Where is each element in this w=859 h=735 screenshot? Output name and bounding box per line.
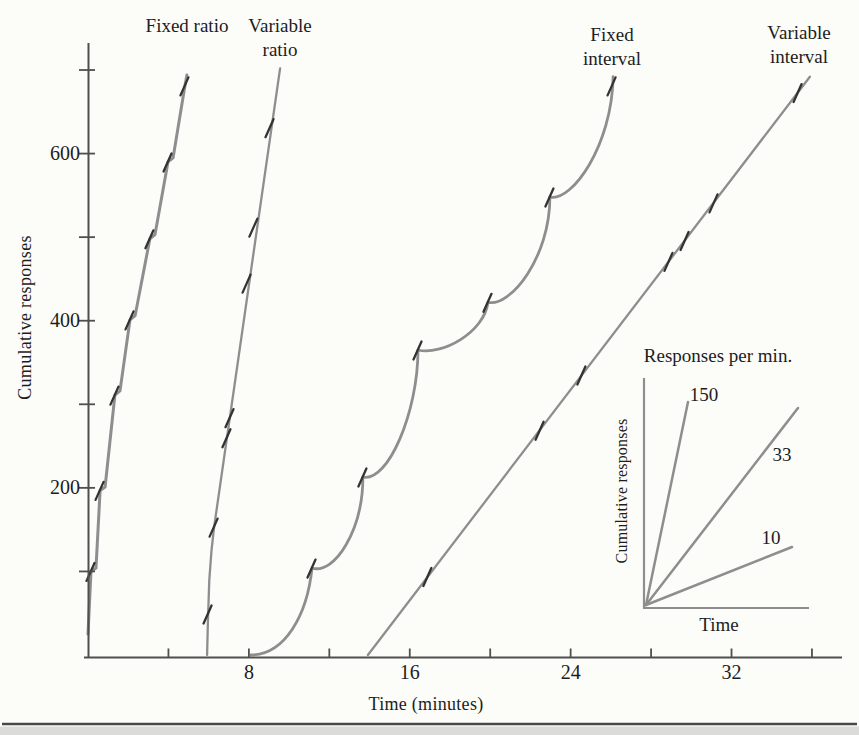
x-tick-label-24: 24 (549, 661, 593, 684)
pip-variable-interval-1 (536, 422, 544, 440)
inset-y-axis-label: Cumulative responses (613, 375, 631, 607)
curve-label-fixed-ratio: Fixed ratio (141, 14, 233, 38)
pip-variable-interval-4 (681, 232, 689, 250)
inset-slope-line-150 (646, 402, 688, 605)
y-tick-label-600: 600 (34, 142, 80, 165)
curve-variable-ratio (207, 68, 280, 655)
pip-variable-interval-5 (710, 194, 718, 212)
inset-x-axis-label: Time (659, 614, 779, 636)
curve-fixed-ratio (88, 75, 187, 634)
inset-title: Responses per min. (608, 345, 828, 367)
y-axis-label: Cumulative responses (15, 200, 36, 436)
pip-variable-interval-0 (423, 568, 431, 586)
pip-variable-interval-6 (794, 84, 802, 102)
y-tick-label-200: 200 (34, 476, 80, 499)
curve-label-fixed-interval: Fixed interval (566, 23, 658, 71)
x-tick-label-32: 32 (710, 661, 754, 684)
pip-variable-interval-3 (664, 253, 672, 271)
x-tick-label-16: 16 (388, 661, 432, 684)
reinforcement-schedules-figure: Cumulative responses Time (minutes) Resp… (0, 0, 859, 735)
x-axis-label: Time (minutes) (316, 694, 536, 715)
inset-slope-value-33: 33 (755, 444, 809, 466)
x-tick-label-8: 8 (227, 661, 271, 684)
bottom-band (0, 727, 859, 735)
inset-slope-value-10: 10 (744, 527, 798, 549)
curve-label-variable-interval: Variable interval (753, 21, 845, 69)
pip-variable-interval-2 (577, 367, 585, 385)
curve-label-variable-ratio: Variable ratio (234, 14, 326, 62)
inset-slope-value-150: 150 (677, 384, 731, 406)
y-tick-label-400: 400 (34, 309, 80, 332)
